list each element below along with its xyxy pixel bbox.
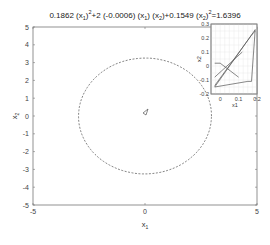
y-tick-label: 0 <box>25 113 29 120</box>
inset-y-tick-label: 0.2 <box>201 35 209 41</box>
y-tick-label: 2 <box>25 77 29 84</box>
inset-x-label: x1 <box>232 102 238 108</box>
inset-y-tick-label: 0.3 <box>201 21 209 27</box>
inset-y-label: x2 <box>196 56 202 62</box>
y-tick-label: -5 <box>23 202 29 209</box>
inset-y-tick-label: 0.1 <box>201 49 209 55</box>
y-tick-label: 1 <box>25 95 29 102</box>
inset-y-tick-label: 0 <box>206 63 209 69</box>
y-tick-label: -1 <box>23 130 29 137</box>
x-tick-label: -5 <box>30 208 36 215</box>
x-axis-label: x1 <box>142 220 149 230</box>
y-tick-label: 4 <box>25 41 29 48</box>
inset-x-tick-label: 0.2 <box>253 96 261 102</box>
inset-x-tick-label: 0 <box>219 96 222 102</box>
y-axis-label: x2 <box>10 113 20 120</box>
chart-canvas: -5-4-3-2-1012345-505x1x2-0.2-0.100.10.20… <box>0 0 270 245</box>
inset-y-tick-label: -0.2 <box>200 91 209 97</box>
x-tick-label: 0 <box>143 208 147 215</box>
y-tick-label: 5 <box>25 24 29 31</box>
x-tick-label: 5 <box>255 208 259 215</box>
inset-y-tick-label: -0.1 <box>200 77 209 83</box>
y-tick-label: 3 <box>25 59 29 66</box>
y-tick-label: -3 <box>23 166 29 173</box>
y-tick-label: -4 <box>23 184 29 191</box>
y-tick-label: -2 <box>23 148 29 155</box>
